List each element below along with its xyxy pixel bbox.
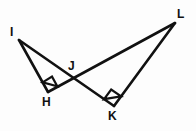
vertex-label-l: L bbox=[177, 8, 184, 20]
geometry-canvas bbox=[0, 0, 196, 131]
segment-ijk bbox=[19, 40, 114, 106]
vertex-label-k: K bbox=[108, 110, 117, 122]
vertex-label-i: I bbox=[10, 26, 13, 38]
segment-ih bbox=[19, 40, 48, 92]
segment-kl bbox=[114, 23, 175, 106]
right-angle-marker-k bbox=[104, 90, 121, 100]
geometry-diagram: I H J K L bbox=[0, 0, 196, 131]
vertex-label-j: J bbox=[68, 60, 75, 72]
segment-hjl bbox=[48, 23, 175, 92]
vertex-label-h: H bbox=[42, 96, 51, 108]
